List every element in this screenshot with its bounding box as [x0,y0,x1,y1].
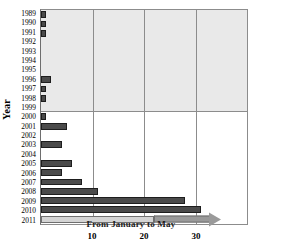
y-tick-label: 1993 [6,47,38,56]
bar[interactable] [41,179,82,186]
y-tick-label: 1992 [6,37,38,46]
x-axis-tick-labels: 102030 [40,231,248,244]
y-tick-label: 2007 [6,178,38,187]
bar[interactable] [41,197,185,204]
bar-row [41,10,247,19]
y-tick-label: 1996 [6,75,38,84]
bar[interactable] [41,21,46,28]
y-tick-label: 1990 [6,18,38,27]
y-tick-label: 2004 [6,150,38,159]
bar-row [41,131,247,140]
y-tick-label: 1995 [6,65,38,74]
bars-layer [41,10,247,224]
y-tick-label: 2003 [6,140,38,149]
y-tick-label: 1998 [6,94,38,103]
bar[interactable] [41,123,67,130]
bar[interactable] [41,76,51,83]
y-tick-label: 1997 [6,84,38,93]
bar-row [41,84,247,93]
bar[interactable] [41,206,201,213]
bar-row [41,196,247,205]
y-tick-label: 2000 [6,112,38,121]
bar-row [41,75,247,84]
bar-row [41,177,247,186]
bar[interactable] [41,160,72,167]
y-tick-label: 2010 [6,206,38,215]
y-tick-label: 1989 [6,9,38,18]
bar-row [41,103,247,112]
bar-row [41,215,247,224]
y-tick-label: 2011 [6,216,38,225]
y-tick-label: 1999 [6,103,38,112]
bar[interactable] [41,169,62,176]
y-tick-label: 1991 [6,28,38,37]
y-tick-label: 2001 [6,122,38,131]
y-tick-label: 2009 [6,197,38,206]
bar-row [41,56,247,65]
bar-row [41,47,247,56]
y-tick-label: 2002 [6,131,38,140]
bar[interactable] [41,141,62,148]
y-axis-tick-labels: 1989199019911992199319941995199619971998… [6,9,38,225]
x-tick-label: 10 [88,231,97,241]
plot-area [40,9,248,225]
x-tick-label: 30 [192,231,201,241]
bar-row [41,187,247,196]
bar[interactable] [41,86,46,93]
bar-row [41,94,247,103]
bar-row [41,159,247,168]
arrow-shaft [154,216,209,223]
bar[interactable] [41,113,46,120]
y-tick-label: 2008 [6,187,38,196]
bar-row [41,19,247,28]
y-tick-label: 2005 [6,159,38,168]
bar[interactable] [41,188,98,195]
x-tick-label: 20 [140,231,149,241]
arrow-head-icon [209,212,221,226]
bar-row [41,112,247,121]
bar-row [41,168,247,177]
bar-row [41,205,247,214]
bar-row [41,140,247,149]
bar-row [41,149,247,158]
bar-chart: Year 19891990199119921993199419951996199… [0,0,290,246]
bar-row [41,38,247,47]
bar[interactable] [41,30,46,37]
projection-arrow [154,216,221,223]
bar-row [41,122,247,131]
bar[interactable] [41,216,154,223]
bar[interactable] [41,11,46,18]
bar-row [41,29,247,38]
y-tick-label: 1994 [6,56,38,65]
bar[interactable] [41,95,46,102]
bar-row [41,66,247,75]
y-tick-label: 2006 [6,169,38,178]
